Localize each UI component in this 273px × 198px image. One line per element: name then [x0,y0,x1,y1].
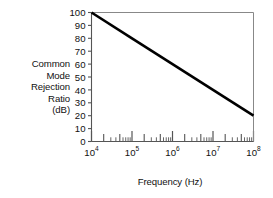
x-axis-ticks [92,131,254,142]
x-tick-label: 106 [165,145,180,157]
data-series-line [92,13,254,116]
y-tick-label: 30 [75,97,86,108]
y-tick-label: 0 [80,136,85,147]
y-tick-label: 60 [75,59,86,70]
y-tick-label: 100 [69,7,85,18]
cmrr-frequency-chart: Common Mode Rejection Ratio (dB) Frequen… [0,0,273,198]
series-cmrr-rolloff [92,13,254,116]
y-tick-label: 50 [75,72,86,83]
x-tick-label: 108 [246,145,261,157]
x-tick-label: 104 [84,145,99,157]
y-axis-tick-labels: 0102030405060708090100 [69,7,85,147]
y-tick-label: 20 [75,110,86,121]
x-axis-tick-labels: 104105106107108 [84,145,261,157]
x-tick-label: 105 [125,145,140,157]
y-tick-label: 70 [75,46,86,57]
y-tick-label: 10 [75,123,86,134]
y-tick-label: 90 [75,20,86,31]
y-tick-label: 40 [75,85,86,96]
plot-svg: 0102030405060708090100 104105106107108 [0,0,273,198]
plot-frame [92,13,254,142]
x-tick-label: 107 [206,145,221,157]
y-tick-label: 80 [75,33,86,44]
